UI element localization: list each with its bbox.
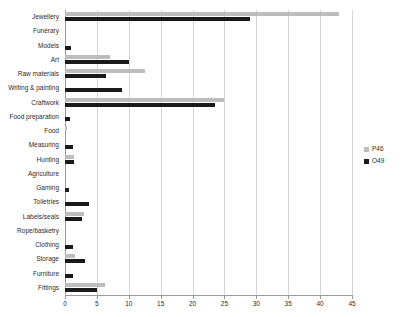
x-tick-label-5: 5 — [95, 300, 99, 308]
x-tick-label-35: 35 — [285, 300, 292, 308]
bar-row — [65, 252, 352, 266]
legend-item[interactable]: O49 — [364, 155, 402, 167]
x-tick-label-40: 40 — [316, 300, 323, 308]
bar-row — [65, 195, 352, 209]
y-axis-label: Models — [38, 42, 59, 50]
bar-row — [65, 210, 352, 224]
x-tick-label-0: 0 — [63, 300, 67, 308]
chart-legend: P46O49 — [364, 143, 402, 167]
legend-item[interactable]: P46 — [364, 143, 402, 155]
x-tick-label-30: 30 — [253, 300, 260, 308]
bar-p46 — [65, 55, 110, 59]
x-tick-mark-20 — [193, 296, 194, 299]
bar-o49 — [65, 103, 215, 107]
y-axis-label: Rope/basketry — [17, 227, 59, 235]
y-axis-label: Writing & painting — [8, 84, 59, 92]
x-tick-label-20: 20 — [189, 300, 196, 308]
y-axis-label: Art — [51, 56, 59, 64]
bar-o49 — [65, 17, 250, 21]
y-axis-label: Funerary — [33, 27, 59, 35]
bar-p46 — [65, 69, 145, 73]
y-axis-category-labels: JewelleryFuneraryModelsArtRaw materialsW… — [0, 10, 62, 295]
bar-row — [65, 10, 352, 24]
chart-title — [0, 0, 404, 8]
bar-o49 — [65, 117, 70, 121]
bar-o49 — [65, 46, 71, 50]
x-tick-label-10: 10 — [125, 300, 132, 308]
bar-row — [65, 267, 352, 281]
y-axis-label: Food preparation — [9, 113, 59, 121]
y-axis-label: Craftwork — [31, 99, 59, 107]
bar-o49 — [65, 74, 106, 78]
bar-row — [65, 39, 352, 53]
bar-o49 — [65, 160, 74, 164]
x-tick-mark-45 — [352, 296, 353, 299]
y-axis-label: Toiletries — [33, 198, 59, 206]
bar-o49 — [65, 60, 129, 64]
x-tick-label-15: 15 — [157, 300, 164, 308]
bar-o49 — [65, 202, 89, 206]
bar-o49 — [65, 188, 69, 192]
gridline-45 — [352, 10, 353, 295]
bar-o49 — [65, 217, 82, 221]
y-axis-label: Hunting — [37, 156, 59, 164]
bar-p46 — [65, 98, 224, 102]
x-tick-mark-35 — [288, 296, 289, 299]
bar-row — [65, 96, 352, 110]
bar-row — [65, 138, 352, 152]
x-tick-mark-10 — [129, 296, 130, 299]
bar-row — [65, 81, 352, 95]
y-axis-label: Fittings — [38, 284, 59, 292]
bar-o49 — [65, 288, 97, 292]
bar-row — [65, 110, 352, 124]
bar-o49 — [65, 274, 73, 278]
bar-p46 — [65, 212, 84, 216]
bar-row — [65, 281, 352, 295]
x-tick-label-45: 45 — [348, 300, 355, 308]
legend-swatch-icon — [364, 159, 369, 164]
y-axis-label: Clothing — [35, 241, 59, 249]
bar-o49 — [65, 88, 122, 92]
plot-area — [65, 10, 352, 295]
y-axis-label: Food — [44, 127, 59, 135]
bar-row — [65, 67, 352, 81]
legend-swatch-icon — [364, 147, 369, 152]
bar-o49 — [65, 145, 73, 149]
bar-row — [65, 224, 352, 238]
y-axis-label: Raw materials — [18, 70, 59, 78]
bar-chart: JewelleryFuneraryModelsArtRaw materialsW… — [0, 0, 404, 317]
bar-o49 — [65, 259, 85, 263]
bar-row — [65, 153, 352, 167]
x-tick-label-25: 25 — [221, 300, 228, 308]
bar-p46 — [65, 283, 105, 287]
y-axis-label: Labels/seals — [23, 213, 59, 221]
bar-row — [65, 124, 352, 138]
y-axis-label: Furniture — [33, 270, 59, 278]
bar-row — [65, 24, 352, 38]
bar-p46 — [65, 126, 67, 130]
y-axis-label: Jewellery — [32, 13, 59, 21]
bar-row — [65, 53, 352, 67]
bar-p46 — [65, 254, 75, 258]
bar-rows — [65, 10, 352, 295]
legend-label: O49 — [372, 157, 384, 165]
bar-row — [65, 181, 352, 195]
y-axis-label: Measuring — [29, 141, 59, 149]
legend-label: P46 — [372, 145, 384, 153]
y-axis-label: Agriculture — [28, 170, 59, 178]
x-tick-mark-30 — [256, 296, 257, 299]
bar-row — [65, 167, 352, 181]
bar-p46 — [65, 12, 339, 16]
x-tick-mark-5 — [97, 296, 98, 299]
x-tick-mark-40 — [320, 296, 321, 299]
x-tick-mark-0 — [65, 296, 66, 299]
x-axis-ticks: 051015202530354045 — [65, 296, 352, 310]
x-tick-mark-15 — [161, 296, 162, 299]
x-tick-mark-25 — [224, 296, 225, 299]
y-axis-label: Storage — [36, 255, 59, 263]
y-axis-label: Gaming — [36, 184, 59, 192]
bar-o49 — [65, 245, 73, 249]
bar-row — [65, 238, 352, 252]
bar-p46 — [65, 155, 74, 159]
